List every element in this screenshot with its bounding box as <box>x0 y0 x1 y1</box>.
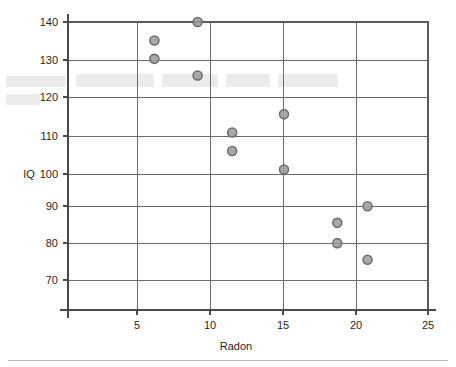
y-tick-label: 70 <box>46 274 58 286</box>
y-tick-label: 110 <box>40 130 58 142</box>
x-tick-label: 20 <box>350 319 362 331</box>
y-tick-label: 80 <box>46 237 58 249</box>
data-point <box>150 36 159 45</box>
data-point <box>193 18 202 27</box>
data-point <box>280 165 289 174</box>
data-point <box>280 110 289 119</box>
x-tick-label: 25 <box>422 319 434 331</box>
y-tick-label: 100 <box>40 168 58 180</box>
data-point <box>333 239 342 248</box>
data-point <box>333 218 342 227</box>
horizontal-gridlines <box>68 22 428 280</box>
data-point <box>228 147 237 156</box>
data-point <box>228 128 237 137</box>
x-tick-label: 5 <box>134 319 140 331</box>
x-axis-title: Radon <box>220 340 252 352</box>
scatter-chart-figure: 140 130 120 110 100 90 80 70 5 10 15 20 … <box>0 0 456 367</box>
y-axis-title: IQ <box>23 168 35 180</box>
y-tick-label: 140 <box>40 16 58 28</box>
y-tick-label: 90 <box>46 200 58 212</box>
y-tick-label: 120 <box>40 91 58 103</box>
data-point <box>150 54 159 63</box>
y-tick-label: 130 <box>40 54 58 66</box>
data-point <box>363 202 372 211</box>
chart-canvas: 140 130 120 110 100 90 80 70 5 10 15 20 … <box>0 0 456 367</box>
data-point <box>193 71 202 80</box>
y-tick-labels: 140 130 120 110 100 90 80 70 <box>40 16 58 286</box>
data-point-layer <box>150 18 372 265</box>
x-tick-marks <box>137 310 428 315</box>
y-tick-marks <box>63 22 68 280</box>
vertical-gridlines <box>137 22 356 310</box>
data-point <box>363 255 372 264</box>
x-tick-label: 10 <box>204 319 216 331</box>
x-tick-labels: 5 10 15 20 25 <box>134 319 434 331</box>
plot-frame <box>68 22 428 310</box>
x-tick-label: 15 <box>277 319 289 331</box>
